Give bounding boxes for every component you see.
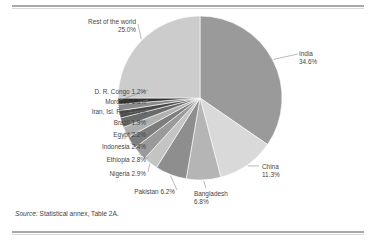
slice-label-egypt-text: Egypt 2.2% [52, 131, 146, 139]
leader-line [204, 181, 206, 188]
slice-label-iran: Iran, Isl. Rep. 1.4% [32, 108, 146, 116]
bottom-rule [12, 231, 364, 233]
slice-label-china: China 11.3% [262, 163, 322, 178]
slice-label-dr-congo: D. R. Congo 1.2% [36, 88, 146, 96]
slice-label-pakistan: Pakistan 6.2% [85, 188, 175, 196]
slice-label-brazil-text: Brazil 1.9% [50, 119, 146, 127]
slice-label-indonesia-text: Indonesia 2.4% [47, 143, 146, 151]
slice-label-china-value: 11.3% [262, 171, 322, 179]
slice-label-dr-congo-text: D. R. Congo 1.2% [36, 88, 146, 96]
slice-label-pakistan-text: Pakistan 6.2% [85, 188, 175, 196]
slice-label-brazil: Brazil 1.9% [50, 119, 146, 127]
slice-label-nigeria-text: Nigeria 2.9% [62, 170, 146, 178]
slice-label-egypt: Egypt 2.2% [52, 131, 146, 139]
source-note: Source: Statistical annex, Table 2A. [15, 210, 119, 217]
slice-label-india-name: India [299, 50, 369, 58]
source-label: Source: [15, 210, 38, 217]
slice-label-morocco: Morocco 1.3% [44, 98, 146, 106]
slice-label-ethiopia-text: Ethiopia 2.8% [57, 156, 146, 164]
source-text: Statistical annex, Table 2A. [38, 210, 119, 217]
pie-chart-area: Rest of the world 25.0% India 34.6% Chin… [0, 0, 376, 243]
bottom-rule-hairline [12, 234, 364, 235]
slice-label-ethiopia: Ethiopia 2.8% [57, 156, 146, 164]
slice-label-rest-of-the-world-name: Rest of the world [40, 18, 136, 26]
leader-line [273, 54, 298, 59]
slice-label-bangladesh: Bangladesh 6.8% [194, 190, 258, 205]
slice-label-china-name: China [262, 163, 322, 171]
slice-label-india: India 34.6% [299, 50, 369, 65]
slice-label-bangladesh-name: Bangladesh [194, 190, 258, 198]
pie-chart-figure: Rest of the world 25.0% India 34.6% Chin… [0, 0, 376, 243]
leader-line [138, 24, 141, 39]
slice-label-indonesia: Indonesia 2.4% [47, 143, 146, 151]
leader-line [148, 164, 150, 172]
slice-label-rest-of-the-world-value: 25.0% [40, 26, 136, 34]
slice-label-nigeria: Nigeria 2.9% [62, 170, 146, 178]
slice-label-bangladesh-value: 6.8% [194, 198, 258, 206]
slice-label-india-value: 34.6% [299, 58, 369, 66]
slice-label-rest-of-the-world: Rest of the world 25.0% [40, 18, 136, 33]
slice-label-iran-text: Iran, Isl. Rep. 1.4% [32, 108, 146, 116]
slice-label-morocco-text: Morocco 1.3% [44, 98, 146, 106]
